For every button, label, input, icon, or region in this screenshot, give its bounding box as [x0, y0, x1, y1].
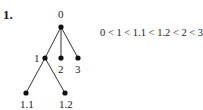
node-2 [58, 55, 63, 60]
node-label-1-1: 1.1 [20, 99, 34, 110]
edge-0-1 [45, 27, 61, 58]
node-3 [75, 55, 80, 60]
node-1 [42, 55, 47, 60]
node-1.1 [23, 90, 28, 95]
ordering-expression: 0 < 1 < 1.1 < 1.2 < 2 < 3 [100, 27, 203, 38]
node-1.2 [62, 90, 67, 95]
node-0 [58, 24, 63, 29]
node-label-0: 0 [58, 9, 64, 20]
node-label-2: 2 [58, 64, 64, 75]
node-label-1: 1 [34, 53, 40, 64]
edge-0-3 [61, 27, 78, 58]
node-label-3: 3 [75, 64, 81, 75]
node-label-1-2: 1.2 [59, 99, 73, 110]
tree-diagram [0, 0, 203, 110]
